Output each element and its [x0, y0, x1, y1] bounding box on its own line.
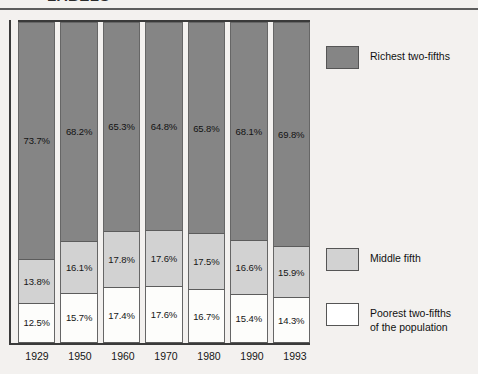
- legend: Richest two-fifths Middle fifth Poorest …: [326, 20, 476, 345]
- table-row: 69.8% 15.9% 14.3%: [273, 22, 310, 343]
- segment-middle: 17.5%: [188, 233, 225, 289]
- segment-value-label: 15.7%: [66, 312, 92, 323]
- table-row: 68.2% 16.1% 15.7%: [60, 22, 97, 343]
- legend-label: Richest two-fifths: [370, 46, 450, 64]
- segment-value-label: 64.8%: [151, 121, 177, 132]
- x-tick-label: 1980: [190, 350, 228, 362]
- segment-value-label: 13.8%: [23, 276, 49, 287]
- header-divider: [0, 8, 478, 10]
- segment-value-label: 69.8%: [278, 129, 304, 140]
- legend-item-richest: Richest two-fifths: [326, 46, 450, 69]
- x-axis-tick-labels: 1929 1950 1960 1970 1980 1990 1993: [18, 350, 314, 362]
- segment-poorest: 17.6%: [145, 286, 182, 342]
- legend-label: Poorest two-fifths of the population: [370, 303, 451, 334]
- segment-richest: 64.8%: [145, 22, 182, 230]
- segment-value-label: 68.1%: [236, 126, 262, 137]
- segment-richest: 69.8%: [273, 22, 310, 246]
- x-axis-line: [9, 343, 310, 345]
- segment-richest: 68.2%: [60, 22, 97, 241]
- segment-poorest: 15.4%: [230, 294, 267, 343]
- segment-value-label: 65.8%: [193, 123, 219, 134]
- legend-swatch-icon: [326, 303, 359, 326]
- segment-richest: 65.3%: [103, 22, 140, 231]
- segment-middle: 17.6%: [145, 230, 182, 286]
- segment-value-label: 16.6%: [236, 262, 262, 273]
- segment-value-label: 16.7%: [193, 311, 219, 322]
- segment-poorest: 16.7%: [188, 289, 225, 343]
- segment-middle: 16.6%: [230, 240, 267, 293]
- segment-richest: 68.1%: [230, 22, 267, 240]
- legend-item-middle: Middle fifth: [326, 248, 421, 271]
- segment-value-label: 14.3%: [278, 315, 304, 326]
- legend-label: Middle fifth: [370, 248, 421, 266]
- segment-richest: 65.8%: [188, 22, 225, 233]
- segment-value-label: 12.5%: [23, 317, 49, 328]
- x-tick-label: 1970: [147, 350, 185, 362]
- segment-middle: 16.1%: [60, 241, 97, 293]
- segment-value-label: 15.4%: [236, 313, 262, 324]
- table-row: 73.7% 13.8% 12.5%: [18, 22, 55, 343]
- table-row: 64.8% 17.6% 17.6%: [145, 22, 182, 343]
- segment-value-label: 65.3%: [108, 121, 134, 132]
- table-row: 65.3% 17.8% 17.4%: [103, 22, 140, 343]
- segment-middle: 17.8%: [103, 231, 140, 288]
- table-row: 65.8% 17.5% 16.7%: [188, 22, 225, 343]
- x-tick-label: 1990: [233, 350, 271, 362]
- segment-richest: 73.7%: [18, 22, 55, 259]
- chart-page: LABELS 73.7% 13.8% 12.5% 68.2% 16.1% 15.…: [0, 0, 478, 374]
- segment-middle: 13.8%: [18, 259, 55, 303]
- segment-value-label: 16.1%: [66, 262, 92, 273]
- segment-poorest: 12.5%: [18, 303, 55, 343]
- segment-poorest: 14.3%: [273, 297, 310, 343]
- x-tick-label: 1929: [18, 350, 56, 362]
- segment-value-label: 15.9%: [278, 267, 304, 278]
- plot-area: 73.7% 13.8% 12.5% 68.2% 16.1% 15.7% 65.3…: [9, 20, 310, 345]
- x-tick-label: 1960: [104, 350, 142, 362]
- segment-poorest: 17.4%: [103, 287, 140, 343]
- segment-value-label: 17.6%: [151, 253, 177, 264]
- x-tick-label: 1950: [61, 350, 99, 362]
- legend-item-poorest: Poorest two-fifths of the population: [326, 303, 451, 334]
- segment-value-label: 17.6%: [151, 309, 177, 320]
- x-tick-label: 1993: [276, 350, 314, 362]
- segment-middle: 15.9%: [273, 246, 310, 297]
- legend-swatch-icon: [326, 46, 359, 69]
- segment-value-label: 17.8%: [108, 254, 134, 265]
- legend-swatch-icon: [326, 248, 359, 271]
- clipped-page-title: LABELS: [47, 0, 110, 1]
- y-axis-line: [9, 20, 11, 345]
- table-row: 68.1% 16.6% 15.4%: [230, 22, 267, 343]
- bars-container: 73.7% 13.8% 12.5% 68.2% 16.1% 15.7% 65.3…: [18, 22, 310, 343]
- segment-value-label: 68.2%: [66, 126, 92, 137]
- segment-poorest: 15.7%: [60, 293, 97, 343]
- segment-value-label: 17.4%: [108, 310, 134, 321]
- segment-value-label: 73.7%: [23, 135, 49, 146]
- segment-value-label: 17.5%: [193, 256, 219, 267]
